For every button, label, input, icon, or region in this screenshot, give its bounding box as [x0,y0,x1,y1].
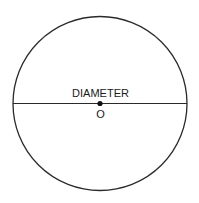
diameter-label: DIAMETER [72,87,129,99]
center-point [97,101,102,106]
center-label: O [96,108,105,120]
circle-diagram: DIAMETER O [0,0,199,203]
